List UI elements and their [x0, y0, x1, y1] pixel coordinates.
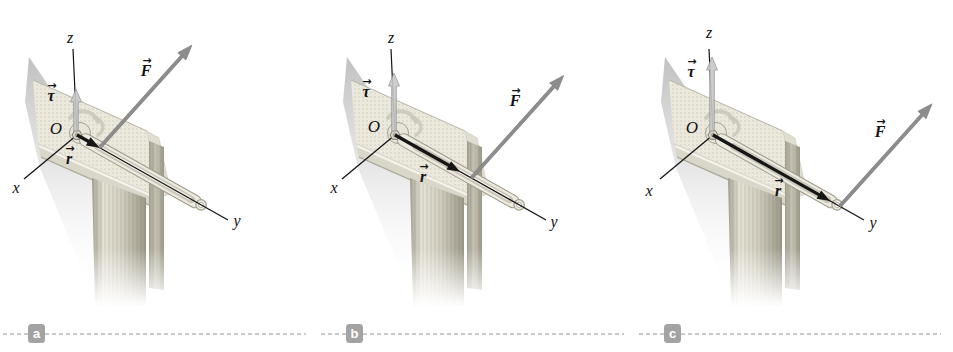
vector-arrow-glyph: → — [419, 160, 427, 173]
vector-arrow-glyph: → — [687, 55, 695, 68]
caption-row: c — [636, 318, 953, 352]
scene-svg — [318, 0, 636, 318]
z-axis-label: z — [706, 25, 712, 41]
force-vector-label: →F — [875, 124, 886, 140]
torque-panel-c: z x y O →τ →F →r c — [636, 0, 953, 352]
scene: z x y O →τ →F →r — [636, 0, 953, 318]
torque-panel-a: z x y O →τ →F →r a — [0, 0, 318, 352]
scene-svg — [0, 0, 318, 318]
position-vector-label: →r — [420, 169, 426, 185]
origin-label: O — [50, 120, 62, 137]
origin-label: O — [368, 118, 380, 135]
x-axis-label: x — [330, 180, 337, 196]
leg-fadeout — [676, 248, 816, 316]
caption-divider — [3, 333, 306, 335]
torque-vector-label: →τ — [687, 64, 694, 80]
z-axis-label: z — [67, 30, 73, 46]
torque-panel-b: z x y O →τ →F →r b — [318, 0, 636, 352]
force-vector-label: →F — [510, 93, 521, 109]
vector-arrow-glyph: → — [362, 75, 370, 88]
torque-vector-label: →τ — [362, 84, 369, 100]
caption-divider — [639, 333, 941, 335]
vector-arrow-glyph: → — [774, 174, 782, 187]
force-vector-label: →F — [141, 63, 152, 79]
position-vector-label: →r — [775, 183, 781, 199]
y-axis-label: y — [869, 215, 876, 231]
vector-arrow-glyph: → — [65, 142, 73, 155]
scene: z x y O →τ →F →r — [0, 0, 318, 318]
y-axis-label: y — [550, 214, 557, 230]
scene: z x y O →τ →F →r — [318, 0, 636, 318]
caption-divider — [321, 333, 624, 335]
panel-letter: a — [33, 326, 40, 341]
leg-fadeout — [358, 248, 498, 316]
position-vector-label: →r — [66, 151, 72, 167]
panel-badge: b — [346, 324, 363, 343]
vector-arrow-glyph: → — [142, 54, 150, 67]
caption-row: a — [0, 318, 318, 352]
origin-label: O — [686, 119, 698, 136]
x-axis-label: x — [12, 180, 19, 196]
panel-letter: c — [669, 326, 676, 341]
force-vector-arrow — [839, 104, 933, 208]
leg-fadeout — [40, 248, 180, 316]
y-axis-label: y — [233, 213, 240, 229]
z-axis-label: z — [388, 30, 394, 46]
torque-figure: z x y O →τ →F →r a — [0, 0, 953, 352]
torque-vector-label: →τ — [47, 88, 54, 104]
vector-arrow-glyph: → — [47, 79, 55, 92]
caption-row: b — [318, 318, 636, 352]
x-axis-label: x — [645, 183, 652, 199]
panel-badge: a — [28, 324, 45, 343]
panel-letter: b — [351, 326, 359, 341]
panel-badge: c — [664, 324, 681, 343]
scene-svg — [636, 0, 953, 318]
vector-arrow-glyph: → — [511, 84, 519, 97]
vector-arrow-glyph: → — [876, 115, 884, 128]
